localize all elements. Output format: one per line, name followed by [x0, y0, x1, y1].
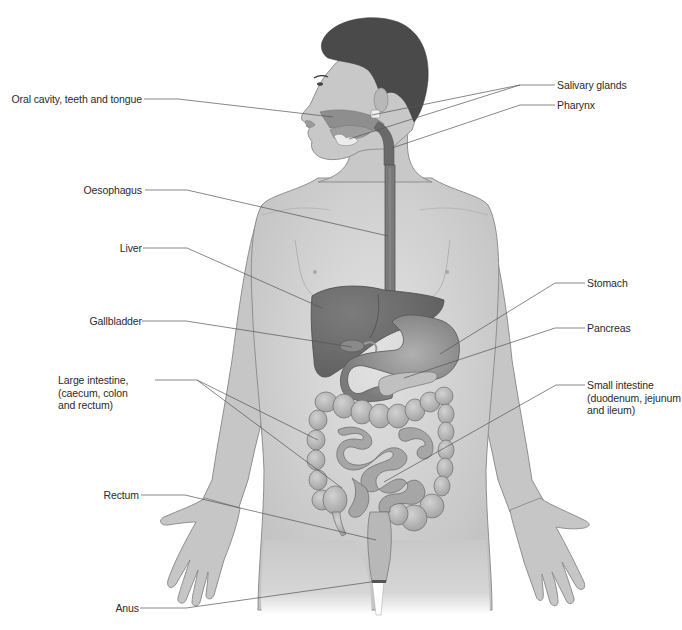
- rectum: [368, 512, 392, 582]
- label-gallbladder: Gallbladder: [89, 315, 142, 328]
- ear: [374, 88, 388, 112]
- label-large-intestine: Large intestine, (caecum, colon and rect…: [58, 374, 128, 412]
- digestive-system-diagram: Oral cavity, teeth and tongue Oesophagus…: [0, 0, 682, 630]
- label-oral-cavity: Oral cavity, teeth and tongue: [11, 93, 142, 106]
- label-rectum: Rectum: [103, 489, 139, 502]
- label-stomach: Stomach: [587, 277, 628, 290]
- label-oesophagus: Oesophagus: [83, 184, 142, 197]
- left-hand: [161, 498, 240, 606]
- label-salivary-glands: Salivary glands: [557, 79, 627, 92]
- label-pharynx: Pharynx: [557, 99, 595, 112]
- label-small-intestine: Small intestine (duodenum, jejunum and i…: [587, 379, 681, 417]
- label-pancreas: Pancreas: [587, 322, 631, 335]
- right-hand: [510, 498, 589, 606]
- label-anus: Anus: [115, 602, 139, 615]
- label-liver: Liver: [120, 242, 142, 255]
